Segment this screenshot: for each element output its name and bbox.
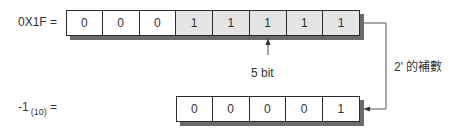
bit-cell: 0 <box>250 96 287 122</box>
twos-complement-label: 2' 的補數 <box>394 57 442 74</box>
left-arrow-icon <box>363 107 370 112</box>
bit-cell: 0 <box>286 96 323 122</box>
up-arrow-icon <box>266 38 271 45</box>
bottom-bit-row: 0 0 0 0 1 <box>176 96 360 122</box>
bit-cell: 0 <box>176 96 213 122</box>
decimal-value-label: -1(10) = <box>18 100 57 117</box>
decimal-value: -1 <box>18 100 29 114</box>
base-subscript: (10) <box>31 107 47 117</box>
bit-cell: 1 <box>323 96 360 122</box>
bit-count-label: 5 bit <box>251 66 274 80</box>
bit-cell: 0 <box>213 96 250 122</box>
equals-sign: = <box>50 100 57 114</box>
